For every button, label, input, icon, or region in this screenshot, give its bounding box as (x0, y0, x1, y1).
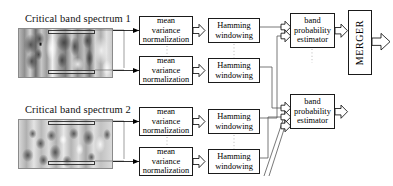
mvn-2-line2: variance (143, 66, 190, 75)
bpe-1-line1: band (294, 16, 331, 25)
hw-1-line2: windowing (215, 31, 253, 40)
mvn-3-line3: normalization (143, 126, 190, 135)
band-probability-estimator-1[interactable]: band probability estimator (290, 13, 335, 48)
block-diagram: Critical band spectrum 1 (0, 0, 393, 186)
bpe-2-line2: probability (294, 107, 331, 116)
hamming-windowing-2[interactable]: Hamming windowing (208, 58, 260, 83)
mean-variance-normalization-2[interactable]: mean variance normalization (139, 56, 193, 85)
mvn-1-line1: mean (143, 16, 190, 25)
mvn-2-line3: normalization (143, 75, 190, 84)
bpe-2-line3: estimator (294, 116, 331, 125)
mvn-4-line3: normalization (143, 166, 190, 175)
mean-variance-normalization-4[interactable]: mean variance normalization (139, 147, 193, 176)
mvn-4-line2: variance (143, 157, 190, 166)
merger-label: MERGER (354, 20, 365, 65)
output-arrow (372, 33, 390, 50)
merger-block[interactable]: MERGER (348, 10, 372, 75)
mvn-1-line2: variance (143, 26, 190, 35)
bpe-2-line1: band (294, 97, 331, 106)
hw-2-line1: Hamming (215, 61, 253, 70)
hw-2-line2: windowing (215, 71, 253, 80)
mvn-1-line3: normalization (143, 35, 190, 44)
band-probability-estimator-2[interactable]: band probability estimator (290, 94, 335, 129)
hw-3-line2: windowing (215, 122, 253, 131)
hw-3-line1: Hamming (215, 112, 253, 121)
mean-variance-normalization-1[interactable]: mean variance normalization (139, 16, 193, 45)
hw-4-line1: Hamming (215, 152, 253, 161)
mvn-3-line2: variance (143, 117, 190, 126)
mvn-4-line1: mean (143, 147, 190, 156)
hamming-windowing-3[interactable]: Hamming windowing (208, 109, 260, 134)
hamming-windowing-4[interactable]: Hamming windowing (208, 149, 260, 174)
bpe-1-line2: probability (294, 26, 331, 35)
hw-4-line2: windowing (215, 162, 253, 171)
mvn-2-line1: mean (143, 56, 190, 65)
mvn-3-line1: mean (143, 107, 190, 116)
mean-variance-normalization-3[interactable]: mean variance normalization (139, 107, 193, 136)
hamming-windowing-1[interactable]: Hamming windowing (208, 18, 260, 43)
hw-1-line1: Hamming (215, 21, 253, 30)
bpe-1-line3: estimator (294, 35, 331, 44)
